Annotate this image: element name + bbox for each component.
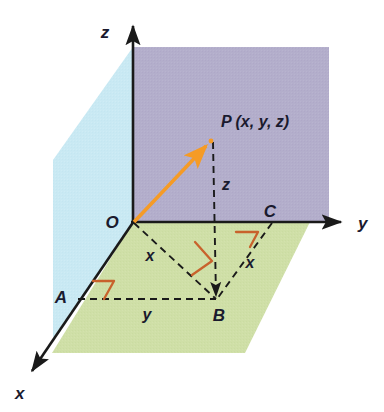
y-axis-label: y [357, 214, 369, 233]
point-a-label: A [54, 288, 67, 307]
point-c-label: C [264, 202, 277, 221]
coordinate-system-figure: z y x O P (x, y, z) A B C z x x y [0, 0, 384, 412]
z-axis-label: z [100, 23, 110, 42]
segment-label-z: z [221, 176, 230, 193]
segment-label-x-right: x [245, 254, 256, 271]
segment-label-x-left: x [145, 247, 156, 264]
plane-yz [133, 47, 329, 222]
point-b-label: B [213, 306, 225, 325]
origin-label: O [105, 213, 118, 232]
x-axis-label: x [14, 384, 26, 403]
segment-label-y-bottom: y [142, 306, 153, 323]
point-p-dot [209, 139, 214, 144]
point-p-label: P (x, y, z) [221, 113, 289, 130]
